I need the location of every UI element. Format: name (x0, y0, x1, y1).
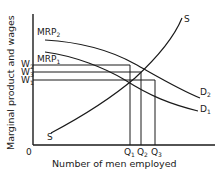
supply-bottom-label: S (47, 132, 53, 142)
mrp2-label: MRP2 (37, 27, 60, 38)
origin-label: 0 (26, 147, 32, 157)
supply-top-label: S (184, 14, 190, 24)
mrp1-label: MRP1 (37, 54, 60, 65)
mrp1-d1-curve (45, 52, 198, 111)
q1-label: Q1 (124, 147, 135, 158)
d1-label: D1 (200, 104, 211, 115)
mrp2-d2-curve (45, 40, 200, 98)
x-axis-title: Number of men employed (52, 158, 177, 169)
q2-label: Q2 (137, 147, 148, 158)
y-axis-title: Marginal product and wages (5, 15, 16, 150)
d2-label: D2 (200, 87, 211, 98)
labour-market-diagram: MRP2 MRP1 D2 D1 S S W2 W3 W1 Q1 Q2 Q3 0 … (0, 0, 221, 176)
q3-label: Q3 (151, 147, 162, 158)
